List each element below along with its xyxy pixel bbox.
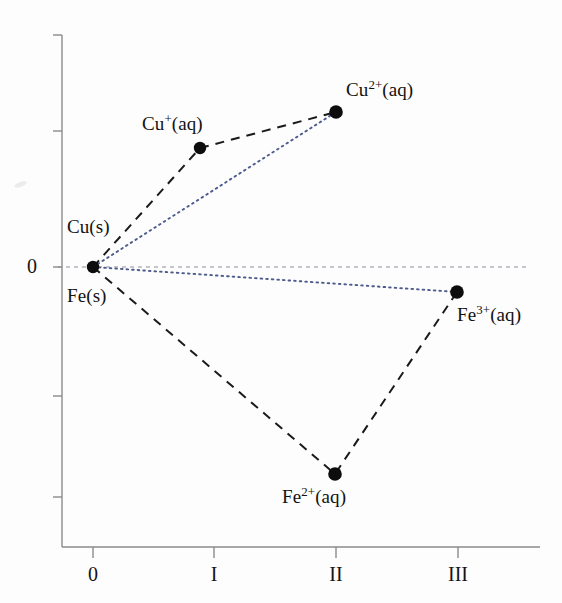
- point-label-cu-2plus: Cu2+(aq): [346, 79, 413, 101]
- reference-tie-lines: [93, 112, 457, 292]
- point-label-fe-s: Fe(s): [67, 285, 107, 307]
- x-tick-label-III: III: [448, 563, 468, 586]
- point-label-cu-2plus-charge: 2+: [368, 77, 382, 92]
- data-point-fe-2plus[interactable]: [328, 467, 342, 481]
- data-point-cu-s[interactable]: [87, 261, 99, 273]
- y-tick-label-zero: 0: [27, 255, 37, 278]
- point-label-cu-plus-charge: +: [164, 111, 171, 126]
- point-label-cu-plus: Cu+(aq): [142, 113, 203, 135]
- x-tick-label-0: 0: [88, 563, 98, 586]
- point-label-fe-2plus-charge: 2+: [301, 484, 315, 499]
- data-point-cu-plus[interactable]: [194, 142, 206, 154]
- x-axis-ticks: [93, 547, 458, 558]
- point-label-cu-2plus-state: (aq): [382, 79, 413, 100]
- point-label-fe-2plus-base: Fe: [282, 486, 301, 507]
- series-fe: [93, 267, 457, 474]
- point-label-cu-plus-state: (aq): [172, 113, 203, 134]
- frost-diagram-figure: 0 0 I II III Cu(s) Fe(s) Cu+(aq) Cu2+(aq…: [0, 0, 562, 603]
- point-label-fe-3plus: Fe3+(aq): [457, 304, 521, 326]
- point-label-cu-s: Cu(s): [67, 216, 110, 238]
- point-label-cu-2plus-base: Cu: [346, 79, 368, 100]
- data-point-cu-2plus[interactable]: [329, 105, 343, 119]
- series-fe-line: [93, 267, 457, 474]
- point-label-fe-2plus: Fe2+(aq): [282, 486, 346, 508]
- point-label-fe-3plus-charge: 3+: [476, 302, 490, 317]
- tie-line-cu: [93, 112, 336, 267]
- tie-line-fe: [93, 267, 457, 292]
- x-tick-label-II: II: [329, 563, 342, 586]
- data-point-markers: [87, 105, 464, 481]
- point-label-cu-plus-base: Cu: [142, 113, 164, 134]
- axis-lines: [62, 35, 540, 547]
- data-point-fe-3plus[interactable]: [450, 285, 464, 299]
- x-tick-label-I: I: [211, 563, 218, 586]
- point-label-fe-2plus-state: (aq): [315, 486, 346, 507]
- y-axis-ticks: [53, 35, 62, 497]
- point-label-fe-3plus-state: (aq): [490, 304, 521, 325]
- point-label-fe-3plus-base: Fe: [457, 304, 476, 325]
